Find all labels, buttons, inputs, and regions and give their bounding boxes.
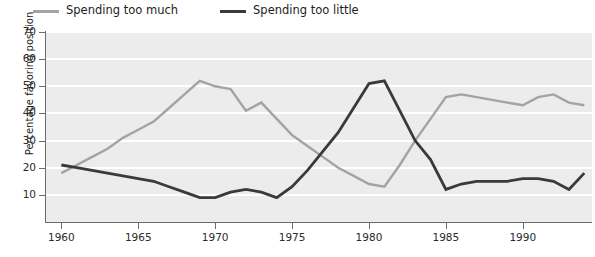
legend-item-spending-too-little: Spending too little bbox=[220, 5, 359, 17]
x-tick-label: 1990 bbox=[500, 231, 546, 243]
line-spending-too-little bbox=[61, 81, 584, 198]
y-tick-label: 60 bbox=[0, 52, 36, 64]
x-tick-mark bbox=[369, 223, 370, 229]
x-tick-mark bbox=[446, 223, 447, 229]
y-tick-label: 70 bbox=[0, 25, 36, 37]
y-tick-label: 40 bbox=[0, 106, 36, 118]
y-tick-mark bbox=[39, 113, 46, 114]
y-tick-mark bbox=[39, 168, 46, 169]
chart-legend: Spending too much Spending too little bbox=[33, 0, 359, 22]
x-tick-mark bbox=[292, 223, 293, 229]
x-tick-label: 1965 bbox=[115, 231, 161, 243]
legend-label: Spending too much bbox=[66, 5, 178, 17]
x-tick-label: 1975 bbox=[269, 231, 315, 243]
y-tick-mark bbox=[39, 141, 46, 142]
x-tick-mark bbox=[61, 223, 62, 229]
x-axis-line bbox=[45, 222, 592, 223]
legend-swatch-icon bbox=[220, 10, 246, 13]
series-layer bbox=[46, 32, 592, 222]
y-tick-mark bbox=[39, 59, 46, 60]
y-tick-label: 30 bbox=[0, 134, 36, 146]
legend-label: Spending too little bbox=[253, 5, 359, 17]
y-tick-mark bbox=[39, 32, 46, 33]
legend-item-spending-too-much: Spending too much bbox=[33, 5, 178, 17]
legend-swatch-icon bbox=[33, 10, 59, 13]
x-tick-label: 1985 bbox=[423, 231, 469, 243]
y-tick-mark bbox=[39, 195, 46, 196]
x-tick-mark bbox=[138, 223, 139, 229]
y-tick-label: 10 bbox=[0, 188, 36, 200]
y-tick-mark bbox=[39, 86, 46, 87]
x-tick-mark bbox=[215, 223, 216, 229]
x-tick-label: 1970 bbox=[192, 231, 238, 243]
x-tick-label: 1960 bbox=[38, 231, 84, 243]
y-tick-label: 20 bbox=[0, 161, 36, 173]
line-spending-too-much bbox=[61, 81, 584, 187]
chart-figure: Spending too much Spending too little Pe… bbox=[0, 0, 595, 257]
x-tick-label: 1980 bbox=[346, 231, 392, 243]
x-tick-mark bbox=[523, 223, 524, 229]
y-tick-label: 50 bbox=[0, 79, 36, 91]
